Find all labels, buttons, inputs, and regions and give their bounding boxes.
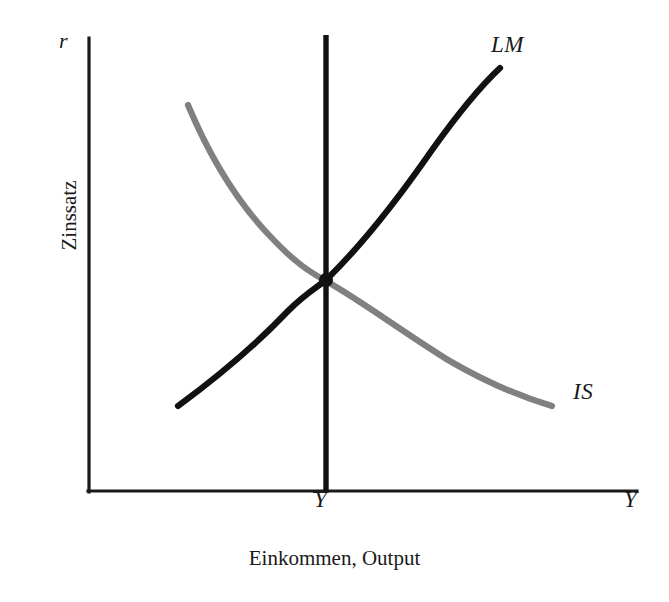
lm-curve-label: LM: [491, 32, 524, 58]
overbar-rule: [313, 491, 328, 493]
equilibrium-point-marker: [319, 273, 333, 287]
y-axis-variable-label: r: [59, 28, 68, 54]
is-lm-figure: r LM IS Y Y Zinssatz Einkommen, Output: [0, 0, 669, 602]
lm-curve: [178, 68, 500, 406]
y-axis-title: Zinssatz: [57, 146, 82, 286]
is-curve: [188, 105, 552, 406]
is-lm-chart-canvas: [0, 0, 669, 602]
x-axis-title: Einkommen, Output: [0, 546, 669, 571]
chart-axes: [88, 38, 637, 492]
potential-output-tick-label: Y: [314, 487, 327, 513]
is-curve-label: IS: [573, 379, 593, 405]
x-axis-variable-label: Y: [624, 487, 637, 513]
y-bar-glyph-wrap: Y: [314, 488, 327, 512]
